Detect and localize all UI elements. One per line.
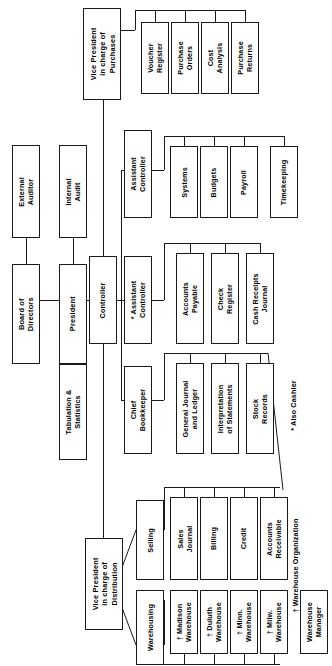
node-label: VoucherRegister — [146, 43, 164, 73]
node-label: ChiefBookkeeper — [129, 389, 147, 432]
connector-selling-bus — [164, 487, 165, 530]
node-systems[interactable]: Systems — [170, 146, 198, 218]
node-madison-warehouse[interactable]: † MadisonWarehouse — [170, 590, 198, 654]
node-duluth-warehouse[interactable]: † DuluthWarehouse — [200, 590, 228, 654]
connector-purchase-returns-drop — [245, 10, 246, 22]
node-selling[interactable]: Selling — [136, 500, 164, 580]
node-accounts-payable[interactable]: AccountsPayable — [176, 253, 204, 344]
node-label: Selling — [146, 528, 155, 553]
connector-voucher-register-drop — [155, 10, 156, 22]
connector-general-journal-drop — [190, 353, 191, 363]
node-milw-warehouse[interactable]: † Milw.Warehouse — [260, 590, 288, 654]
connector-board-external-auditor — [26, 238, 27, 264]
node-label: Payroll — [240, 169, 249, 194]
connector-payroll-drop — [244, 136, 245, 146]
footnote-also-cashier: * Also Cashier — [286, 370, 300, 440]
node-credit[interactable]: Credit — [230, 497, 258, 580]
connector-budgets-drop — [214, 136, 215, 146]
node-stock-records[interactable]: StockRecords — [246, 363, 274, 454]
node-timekeeping[interactable]: Timekeeping — [270, 146, 298, 218]
connector-purchases-bus-top — [135, 10, 245, 11]
node-label: SalesJournal — [175, 525, 193, 552]
node-vp-purchases[interactable]: Vice Presidentin charge ofPurchases — [83, 8, 121, 100]
node-label: ExternalAuditor — [17, 177, 35, 207]
node-label: Timekeeping — [280, 159, 289, 204]
node-label: Tabulation &Statistics — [64, 390, 82, 435]
node-purchase-returns[interactable]: PurchaseReturns — [231, 22, 259, 94]
footnote-text: * Also Cashier — [289, 380, 298, 431]
connector-asst1-bus — [164, 136, 165, 170]
footnote-text: † Warehouse Organization — [291, 518, 300, 612]
node-external-auditor[interactable]: ExternalAuditor — [12, 145, 40, 238]
node-vp-distribution[interactable]: Vice Presidentin charge ofDistribution — [85, 538, 123, 630]
node-label: AssistantController — [129, 156, 147, 192]
node-voucher-register[interactable]: VoucherRegister — [141, 22, 169, 94]
node-assistant-controller-2[interactable]: * AssistantController — [124, 256, 152, 344]
node-label: PurchaseReturns — [236, 41, 254, 75]
connector-bookkeeper-bus-top — [164, 353, 268, 354]
connector-accounts-payable-drop — [190, 243, 191, 253]
connector-cash-receipts-drop — [260, 243, 261, 253]
connector-cost-analysis-drop — [215, 10, 216, 22]
node-controller[interactable]: Controller — [89, 256, 117, 344]
connector-warehousing-bus — [164, 600, 165, 645]
node-label: AccountsPayable — [181, 282, 199, 316]
node-label: WarehouseManager — [305, 602, 323, 642]
node-label: InternalAudit — [64, 178, 82, 205]
connector-minn-drop — [244, 654, 245, 665]
node-label: Vice Presidentin charge ofDistribution — [90, 558, 118, 611]
node-president[interactable]: President — [59, 264, 87, 364]
node-label: Interpretationof Statements — [216, 384, 234, 433]
node-label: President — [68, 296, 77, 331]
footnote-warehouse-organization: † Warehouse Organization — [288, 510, 302, 620]
node-cost-analysis[interactable]: CostAnalysis — [201, 22, 229, 94]
node-label: Board ofDirectors — [17, 297, 36, 331]
node-tabulation-statistics[interactable]: Tabulation &Statistics — [59, 364, 87, 460]
connector-asst1-bus-top — [164, 136, 284, 137]
connector-duluth-drop — [214, 654, 215, 665]
node-label: General Journaland Ledger — [181, 380, 199, 437]
connector-president-internal-audit — [73, 238, 74, 264]
connector-billing-drop — [214, 487, 215, 497]
node-cash-receipts-journal[interactable]: Cash ReceiptsJournal — [246, 253, 274, 344]
connector-purchase-orders-drop — [185, 10, 186, 22]
node-label: AccountsReceivable — [265, 519, 283, 558]
node-payroll[interactable]: Payroll — [230, 146, 258, 218]
connector-sales-journal-drop — [184, 487, 185, 497]
node-purchase-orders[interactable]: PurchaseOrders — [171, 22, 199, 94]
node-internal-audit[interactable]: InternalAudit — [59, 145, 87, 238]
connector-systems-drop — [184, 136, 185, 146]
connector-milw-drop — [274, 654, 275, 665]
node-check-register[interactable]: CheckRegister — [211, 253, 239, 344]
connector-asst2-bus-top — [164, 243, 260, 244]
node-budgets[interactable]: Budgets — [200, 146, 228, 218]
node-label: † MadisonWarehouse — [175, 602, 193, 642]
node-label: † Minn.Warehouse — [235, 602, 253, 642]
node-warehousing[interactable]: Warehousing — [136, 590, 164, 665]
connector-asst1-stem — [152, 170, 164, 171]
node-assistant-controller-1[interactable]: AssistantController — [124, 130, 152, 218]
node-label: Cash ReceiptsJournal — [251, 273, 269, 324]
node-billing[interactable]: Billing — [200, 497, 228, 580]
connector-madison-drop — [184, 654, 185, 665]
node-interpretation-statements[interactable]: Interpretationof Statements — [211, 363, 239, 454]
connector-stock-records-drop — [260, 353, 261, 363]
node-label: Systems — [180, 167, 189, 198]
node-label: CostAnalysis — [206, 43, 224, 74]
node-minn-warehouse[interactable]: † Minn.Warehouse — [230, 590, 258, 654]
node-label: Budgets — [210, 167, 219, 197]
node-board-of-directors[interactable]: Board ofDirectors — [12, 264, 40, 364]
node-general-journal-ledger[interactable]: General Journaland Ledger — [176, 363, 204, 454]
connector-controller-children-bus — [121, 170, 122, 400]
node-label: Vice Presidentin charge ofPurchases — [88, 28, 116, 81]
node-label: Credit — [239, 528, 248, 550]
node-chief-bookkeeper[interactable]: ChiefBookkeeper — [124, 366, 152, 454]
node-label: Warehousing — [146, 604, 155, 651]
connector-vp-purchases-stem — [121, 30, 135, 31]
node-sales-journal[interactable]: SalesJournal — [170, 497, 198, 580]
node-warehouse-manager[interactable]: WarehouseManager — [300, 590, 328, 654]
node-accounts-receivable[interactable]: AccountsReceivable — [260, 497, 288, 580]
connector-bookkeeper-bus — [164, 353, 165, 400]
connector-asst2-stem — [152, 300, 164, 301]
org-chart: ExternalAuditor InternalAudit Board ofDi… — [0, 0, 332, 666]
